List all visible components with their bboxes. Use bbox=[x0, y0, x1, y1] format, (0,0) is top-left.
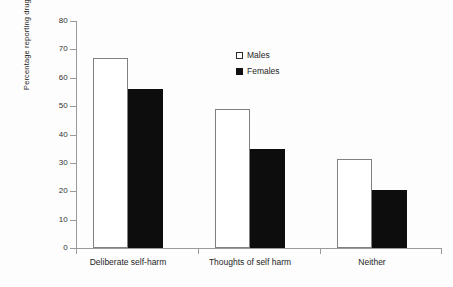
bar-chart-figure: Percentage reporting drug use 0102030405… bbox=[0, 0, 453, 287]
y-tick-label-20: 20 bbox=[28, 187, 68, 195]
bar-males-group-1 bbox=[93, 58, 128, 248]
legend-item-males: Males bbox=[236, 49, 280, 62]
x-tick-4 bbox=[441, 248, 442, 254]
x-axis-line bbox=[70, 248, 441, 249]
bar-females-group-1 bbox=[128, 89, 163, 248]
y-tick-label-50: 50 bbox=[28, 102, 68, 110]
y-tick-label-70: 70 bbox=[28, 45, 68, 53]
y-tick-20 bbox=[70, 191, 77, 192]
legend-swatch-filled-square-icon bbox=[236, 68, 243, 75]
x-tick-1 bbox=[76, 248, 77, 254]
x-tick-3 bbox=[320, 248, 321, 254]
y-tick-label-0: 0 bbox=[28, 244, 68, 252]
bar-females-group-3 bbox=[372, 190, 407, 248]
y-tick-50 bbox=[70, 106, 77, 107]
bar-males-group-3 bbox=[337, 159, 372, 248]
legend-label-males: Males bbox=[247, 51, 270, 60]
y-tick-label-40: 40 bbox=[28, 131, 68, 139]
x-category-label-3: Neither bbox=[292, 258, 452, 267]
y-tick-label-60: 60 bbox=[28, 74, 68, 82]
y-tick-60 bbox=[70, 78, 77, 79]
y-tick-40 bbox=[70, 135, 77, 136]
legend-item-females: Females bbox=[236, 65, 280, 78]
y-tick-80 bbox=[70, 21, 77, 22]
bar-females-group-2 bbox=[250, 149, 285, 248]
y-tick-30 bbox=[70, 163, 77, 164]
bar-males-group-2 bbox=[215, 109, 250, 248]
y-tick-label-10: 10 bbox=[28, 216, 68, 224]
y-tick-10 bbox=[70, 220, 77, 221]
y-tick-label-30: 30 bbox=[28, 159, 68, 167]
chart-legend: Males Females bbox=[236, 49, 280, 81]
x-tick-2 bbox=[198, 248, 199, 254]
y-tick-70 bbox=[70, 49, 77, 50]
legend-label-females: Females bbox=[247, 67, 280, 76]
legend-swatch-open-square-icon bbox=[236, 52, 243, 59]
y-tick-label-80: 80 bbox=[28, 17, 68, 25]
